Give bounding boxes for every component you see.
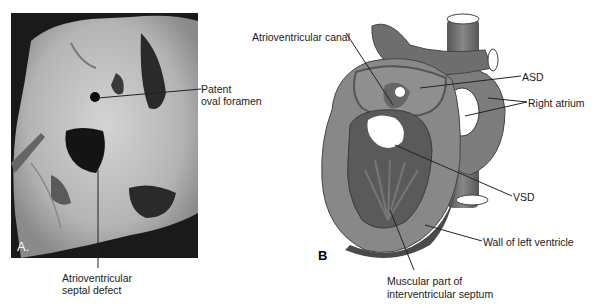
label-vsd: VSD — [513, 191, 535, 203]
panel-b-letter: B — [318, 248, 327, 263]
label-av-canal: Atrioventricular canal — [252, 31, 350, 43]
panel-b-heart-illustration — [0, 0, 593, 307]
label-muscular-septum-1: Muscular part of — [387, 275, 462, 287]
label-asd: ASD — [522, 71, 544, 83]
label-muscular-septum-2: interventricular septum — [387, 288, 493, 300]
label-wall-left-ventricle: Wall of left ventricle — [483, 236, 574, 248]
label-right-atrium: Right atrium — [528, 97, 585, 109]
